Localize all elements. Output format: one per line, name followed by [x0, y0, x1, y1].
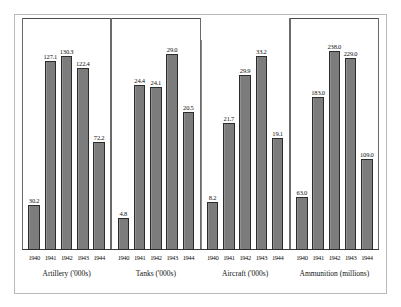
panel-artillery: 30.2 127.1 130.3 122.4 72.2 — [22, 18, 111, 290]
bar[interactable] — [345, 58, 357, 250]
x-axis-ammunition: 1940 1941 1942 1943 1944 — [290, 250, 379, 264]
bar-value-label: 24.4 — [134, 78, 145, 85]
bar-value-label: 183.0 — [311, 90, 325, 97]
panel-ammunition: 63.0 183.0 238.0 229.0 109.0 — [290, 18, 379, 290]
bar-value-label: 30.2 — [29, 198, 40, 205]
x-tick: 1940 — [115, 254, 131, 261]
bar-slot: 29.9 — [237, 18, 253, 250]
panel-aircraft: 8.2 21.7 29.9 33.2 19.1 — [201, 18, 290, 290]
panel-group: 30.2 127.1 130.3 122.4 72.2 — [22, 18, 379, 290]
bar[interactable] — [61, 56, 73, 250]
x-tick: 1942 — [237, 254, 253, 261]
bar-slot: 122.4 — [75, 18, 91, 250]
bar-value-label: 21.7 — [224, 116, 235, 123]
x-tick: 1941 — [221, 254, 237, 261]
bar[interactable] — [207, 202, 219, 250]
bar-slot: 238.0 — [326, 18, 342, 250]
bar-slot: 24.4 — [132, 18, 148, 250]
plot-area-tanks: 4.8 24.4 24.1 29.0 20.5 — [111, 18, 200, 250]
bar-slot: 127.1 — [42, 18, 58, 250]
bar-value-label: 29.9 — [240, 68, 251, 75]
bar-value-label: 8.2 — [209, 195, 217, 202]
chart-figure: 30.2 127.1 130.3 122.4 72.2 — [0, 0, 401, 307]
bar[interactable] — [183, 112, 195, 250]
x-tick: 1943 — [164, 254, 180, 261]
bar[interactable] — [256, 56, 268, 250]
x-tick: 1944 — [359, 254, 375, 261]
x-tick: 1942 — [148, 254, 164, 261]
x-tick: 1941 — [310, 254, 326, 261]
bar-slot: 8.2 — [205, 18, 221, 250]
bar-slot: 229.0 — [343, 18, 359, 250]
x-tick: 1941 — [42, 254, 58, 261]
bar-slot: 21.7 — [221, 18, 237, 250]
bar-slot: 72.2 — [91, 18, 107, 250]
bar[interactable] — [272, 138, 284, 250]
bar[interactable] — [239, 75, 251, 250]
bar-value-label: 4.8 — [120, 211, 128, 218]
bar[interactable] — [150, 87, 162, 250]
bar-value-label: 238.0 — [328, 44, 342, 51]
bar-value-label: 122.4 — [76, 61, 90, 68]
x-tick: 1940 — [205, 254, 221, 261]
bar[interactable] — [296, 197, 308, 250]
x-tick: 1943 — [343, 254, 359, 261]
x-tick: 1944 — [91, 254, 107, 261]
plot-area-artillery: 30.2 127.1 130.3 122.4 72.2 — [22, 18, 111, 250]
bar[interactable] — [329, 51, 341, 250]
bar-slot: 109.0 — [359, 18, 375, 250]
bar-slot: 4.8 — [115, 18, 131, 250]
x-tick: 1940 — [294, 254, 310, 261]
bar-slot: 19.1 — [270, 18, 286, 250]
x-tick: 1941 — [132, 254, 148, 261]
x-tick: 1943 — [253, 254, 269, 261]
plot-area-aircraft: 8.2 21.7 29.9 33.2 19.1 — [201, 18, 290, 250]
bar-slot: 183.0 — [310, 18, 326, 250]
bar[interactable] — [312, 97, 324, 250]
plot-area-ammunition: 63.0 183.0 238.0 229.0 109.0 — [290, 18, 379, 250]
bar-slot: 29.0 — [164, 18, 180, 250]
panel-title-artillery: Artillery ('000s) — [22, 264, 111, 290]
bar-value-label: 33.2 — [256, 49, 267, 56]
bar[interactable] — [77, 68, 89, 250]
bar[interactable] — [28, 205, 40, 250]
x-tick: 1942 — [326, 254, 342, 261]
bar[interactable] — [223, 123, 235, 250]
bar-value-label: 127.1 — [44, 54, 58, 61]
bar[interactable] — [134, 85, 146, 250]
bar[interactable] — [93, 142, 105, 250]
bar-slot: 130.3 — [59, 18, 75, 250]
bar-slot: 33.2 — [253, 18, 269, 250]
x-axis-tanks: 1940 1941 1942 1943 1944 — [111, 250, 200, 264]
bar[interactable] — [166, 54, 178, 250]
bar-slot: 63.0 — [294, 18, 310, 250]
x-tick: 1943 — [75, 254, 91, 261]
bar-value-label: 20.5 — [183, 105, 194, 112]
bar[interactable] — [361, 159, 373, 250]
x-tick: 1942 — [59, 254, 75, 261]
bar-value-label: 29.0 — [167, 47, 178, 54]
bar-value-label: 19.1 — [272, 131, 283, 138]
panel-title-aircraft: Aircraft ('000s) — [201, 264, 290, 290]
bar-value-label: 24.1 — [151, 80, 162, 87]
bar-value-label: 109.0 — [360, 152, 374, 159]
x-axis-artillery: 1940 1941 1942 1943 1944 — [22, 250, 111, 264]
bar-slot: 30.2 — [26, 18, 42, 250]
bar-slot: 20.5 — [180, 18, 196, 250]
bar-value-label: 72.2 — [94, 135, 105, 142]
x-tick: 1944 — [270, 254, 286, 261]
x-tick: 1940 — [26, 254, 42, 261]
bar-value-label: 130.3 — [60, 49, 74, 56]
panel-tanks: 4.8 24.4 24.1 29.0 20.5 — [111, 18, 200, 290]
bar[interactable] — [45, 61, 57, 250]
bar-value-label: 63.0 — [297, 190, 308, 197]
x-tick: 1944 — [180, 254, 196, 261]
x-axis-aircraft: 1940 1941 1942 1943 1944 — [201, 250, 290, 264]
bar-slot: 24.1 — [148, 18, 164, 250]
panel-title-ammunition: Ammunition (millions) — [290, 264, 379, 290]
bar[interactable] — [118, 218, 130, 250]
bar-value-label: 229.0 — [344, 51, 358, 58]
panel-title-tanks: Tanks ('000s) — [111, 264, 200, 290]
